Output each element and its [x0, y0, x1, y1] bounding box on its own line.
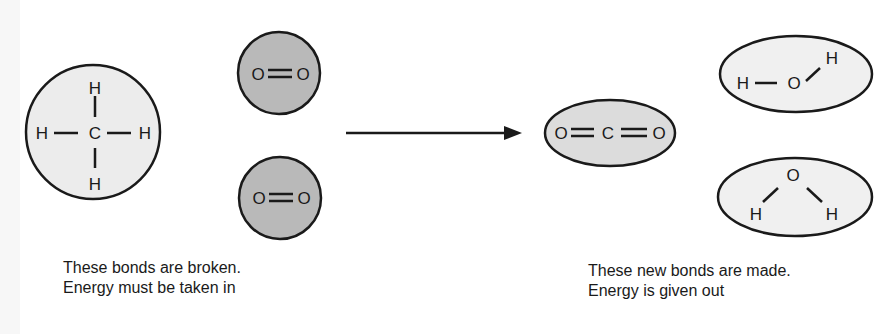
oxygen-molecule-1: O O — [238, 32, 320, 114]
atom-o-left: O — [252, 189, 265, 208]
caption-bonds-made: These new bonds are made. Energy is give… — [588, 261, 791, 301]
atom-o-right: O — [296, 65, 309, 84]
caption-right-line2: Energy is given out — [588, 281, 791, 301]
atom-h-left: H — [36, 124, 48, 143]
caption-left-line1: These bonds are broken. — [63, 258, 241, 278]
atom-o-right: O — [652, 124, 665, 143]
water-molecule-2: O H H — [718, 158, 872, 236]
atom-h-top: H — [89, 79, 101, 98]
atom-o-left: O — [554, 124, 567, 143]
atom-o-right: O — [297, 189, 310, 208]
oxygen-molecule-2: O O — [239, 157, 321, 239]
atom-h-right: H — [139, 124, 151, 143]
atom-c-center: C — [89, 124, 101, 143]
carbon-dioxide-molecule: O C O — [545, 100, 675, 166]
caption-left-line2: Energy must be taken in — [63, 278, 241, 298]
methane-molecule: H C H H H — [26, 65, 160, 199]
atom-h-left: H — [737, 74, 749, 93]
atom-h-bottom: H — [89, 175, 101, 194]
water-molecule-1: H O H — [720, 36, 872, 112]
atom-o: O — [786, 166, 799, 185]
atom-c-center: C — [602, 124, 614, 143]
caption-bonds-broken: These bonds are broken. Energy must be t… — [63, 258, 241, 298]
caption-right-line1: These new bonds are made. — [588, 261, 791, 281]
reaction-arrow-icon — [346, 126, 522, 140]
atom-h-left: H — [750, 205, 762, 224]
atom-h-right: H — [826, 205, 838, 224]
atom-o: O — [787, 74, 800, 93]
atom-o-left: O — [251, 65, 264, 84]
atom-h-right: H — [826, 49, 838, 68]
